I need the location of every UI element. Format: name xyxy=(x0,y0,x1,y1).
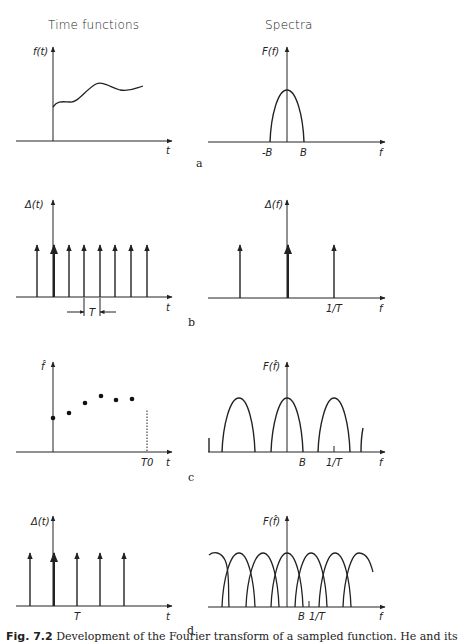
panel-b-time xyxy=(16,200,172,316)
panel-b-spacing-label: T xyxy=(89,307,96,318)
panel-c-time-ylabel: f̂ xyxy=(41,360,46,372)
panel-b-time-xlabel: t xyxy=(166,302,171,313)
caption-prefix: Fig. 7.2 xyxy=(6,630,53,642)
panel-a-spectrum-tick-minus-b: -B xyxy=(262,147,273,158)
caption-text: Development of the Fourier transform of … xyxy=(53,630,458,642)
panel-d-time xyxy=(16,516,172,606)
figure-caption: Fig. 7.2 Development of the Fourier tran… xyxy=(6,630,458,642)
panel-c-spectrum xyxy=(208,362,385,452)
panel-c-spectrum-tick-b: B xyxy=(299,457,306,468)
panel-b-time-ylabel: Δ(t) xyxy=(24,199,44,210)
panel-c-time-xlabel: t xyxy=(166,457,171,468)
panel-d-time-xlabel: t xyxy=(166,611,171,622)
panel-b-spectrum xyxy=(208,200,385,298)
panel-b-label: b xyxy=(188,316,195,329)
panel-a-spectrum xyxy=(208,47,385,142)
panel-a-time-xlabel: t xyxy=(166,145,171,156)
panel-a-spectrum-ylabel: F(f) xyxy=(262,46,279,57)
panel-a-spectrum-tick-b: B xyxy=(300,147,307,158)
panel-a-spectrum-xlabel: f xyxy=(379,147,384,158)
panel-a-time-ylabel: f(t) xyxy=(33,46,48,57)
panel-d-spectrum xyxy=(208,516,385,607)
panel-b-spectrum-tick-1-over-t: 1/T xyxy=(326,303,343,314)
panel-d-spectrum-xlabel: f xyxy=(379,611,384,622)
panel-d-time-tick-t: T xyxy=(74,611,81,622)
panel-d-time-ylabel: Δ(t) xyxy=(30,516,50,527)
panel-c-spectrum-tick-1-over-t: 1/T xyxy=(326,457,343,468)
panel-c-spectrum-ylabel: F(f̂) xyxy=(263,360,280,372)
panel-d-spectrum-tick-b: B xyxy=(298,611,305,622)
panel-b-spectrum-xlabel: f xyxy=(379,303,384,314)
panel-c-time-tick-t0: T0 xyxy=(141,457,153,468)
panel-a-time xyxy=(16,47,172,141)
panel-d-spectrum-ylabel: F(f̂) xyxy=(263,515,280,527)
panel-a-label: a xyxy=(196,157,203,170)
panel-b-spectrum-ylabel: Δ(f) xyxy=(264,199,283,210)
panel-c-label: c xyxy=(188,471,194,484)
panel-d-spectrum-tick-1-over-t: 1/T xyxy=(309,611,326,622)
panel-c-spectrum-xlabel: f xyxy=(379,457,384,468)
panel-c-time xyxy=(16,362,172,452)
